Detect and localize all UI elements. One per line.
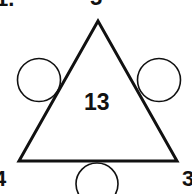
- bottom-side-circle[interactable]: [76, 163, 118, 194]
- question-number: 1.: [0, 0, 14, 10]
- right-side-circle[interactable]: [138, 59, 181, 102]
- target-sum: 13: [84, 89, 110, 116]
- corner-number-top: 5: [90, 0, 102, 9]
- corner-number-bottom-left: 4: [0, 168, 6, 190]
- corner-number-bottom-right: 3: [182, 168, 192, 190]
- left-side-circle[interactable]: [18, 59, 61, 102]
